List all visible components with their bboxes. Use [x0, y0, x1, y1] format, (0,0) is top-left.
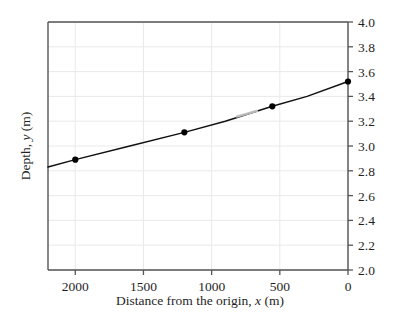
x-tick-label: 1500: [130, 279, 157, 294]
x-tick-label: 500: [270, 279, 291, 294]
x-axis-title: Distance from the origin, x (m): [116, 293, 284, 308]
x-tick-label: 2000: [62, 279, 89, 294]
figure-background: [0, 0, 402, 322]
y-tick-label: 3.6: [358, 65, 375, 80]
x-tick-label: 1000: [198, 279, 225, 294]
y-tick-label: 2.4: [358, 213, 375, 228]
y-tick-label: 2.6: [358, 189, 375, 204]
x-tick-label: 0: [345, 279, 352, 294]
y-tick-label: 2.2: [358, 238, 375, 253]
y-tick-label: 3.2: [358, 114, 375, 129]
y-tick-label: 3.0: [358, 139, 375, 154]
chart-svg: 2000150010005000 2.02.22.42.62.83.03.23.…: [0, 0, 402, 322]
y-tick-label: 4.0: [358, 15, 375, 30]
chart-figure: 2000150010005000 2.02.22.42.62.83.03.23.…: [0, 0, 402, 322]
y-axis-title: Depth, y (m): [18, 112, 33, 181]
y-tick-label: 2.0: [358, 263, 375, 278]
y-tick-label: 3.8: [358, 40, 375, 55]
y-tick-label: 2.8: [358, 164, 375, 179]
y-tick-label: 3.4: [358, 89, 375, 104]
y-tick-labels: 2.02.22.42.62.83.03.23.43.63.84.0: [358, 15, 375, 278]
